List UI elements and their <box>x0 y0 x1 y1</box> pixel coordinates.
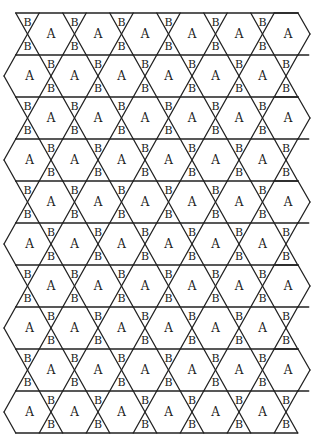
triangle-label-b: B <box>141 226 149 239</box>
hexagon-edge <box>4 160 16 181</box>
hexagon-label-a: A <box>210 321 220 335</box>
triangle-label-b: B <box>164 376 172 389</box>
triangle-label-b: B <box>23 40 31 53</box>
triangle-label-b: B <box>164 40 172 53</box>
hexagon-label-a: A <box>283 363 293 377</box>
triangle-label-b: B <box>188 310 196 323</box>
hexagon-label-a: A <box>24 237 34 251</box>
hexagon-label-a: A <box>257 405 267 419</box>
hexagon-label-a: A <box>257 153 267 167</box>
triangle-label-b: B <box>141 250 149 263</box>
triangle-label-b: B <box>235 58 243 71</box>
triangle-label-b: B <box>188 58 196 71</box>
hexagon-label-a: A <box>163 237 173 251</box>
triangle-label-b: B <box>47 82 55 95</box>
triangle-label-b: B <box>70 124 78 137</box>
hexagon-label-a: A <box>140 279 150 293</box>
triangle-label-b: B <box>282 310 290 323</box>
triangle-label-b: B <box>70 292 78 305</box>
triangle-label-b: B <box>211 268 219 281</box>
triangle-label-b: B <box>282 142 290 155</box>
hexagon-label-a: A <box>210 153 220 167</box>
triangle-label-b: B <box>211 352 219 365</box>
hexagon-label-a: A <box>210 69 220 83</box>
hexagon-label-a: A <box>234 195 244 209</box>
hexagon-label-a: A <box>93 363 103 377</box>
hexagon-label-a: A <box>234 111 244 125</box>
triangle-label-b: B <box>47 226 55 239</box>
hexagon-label-a: A <box>93 111 103 125</box>
hexagon-edge <box>4 391 16 412</box>
triangle-label-b: B <box>23 124 31 137</box>
hexagon-label-a: A <box>46 195 56 209</box>
hexagon-label-a: A <box>69 237 79 251</box>
triangle-label-b: B <box>164 268 172 281</box>
hexagon-edge <box>4 244 16 265</box>
triangle-label-b: B <box>141 58 149 71</box>
triangle-label-b: B <box>235 142 243 155</box>
triangle-label-b: B <box>164 124 172 137</box>
hexagon-edge <box>4 328 16 349</box>
triangle-label-b: B <box>94 226 102 239</box>
hexagon-label-a: A <box>234 27 244 41</box>
hexagon-edge <box>298 370 310 391</box>
triangle-label-b: B <box>282 418 290 431</box>
hexagon-label-a: A <box>140 27 150 41</box>
triangle-label-b: B <box>211 292 219 305</box>
triangle-label-b: B <box>164 292 172 305</box>
hexagon-label-a: A <box>163 405 173 419</box>
triangle-label-b: B <box>258 268 266 281</box>
triangle-label-b: B <box>117 208 125 221</box>
triangle-label-b: B <box>282 394 290 407</box>
triangle-label-b: B <box>235 334 243 347</box>
hexagon-label-a: A <box>46 111 56 125</box>
hexagon-label-a: A <box>283 279 293 293</box>
triangle-label-b: B <box>235 310 243 323</box>
hexagon-label-a: A <box>24 153 34 167</box>
triangle-label-b: B <box>47 142 55 155</box>
triangle-label-b: B <box>258 40 266 53</box>
hexagon-label-a: A <box>140 111 150 125</box>
triangle-label-b: B <box>23 292 31 305</box>
hexagon-label-a: A <box>187 363 197 377</box>
triangle-label-b: B <box>235 250 243 263</box>
triangle-label-b: B <box>258 208 266 221</box>
triangle-label-b: B <box>70 16 78 29</box>
triangle-label-b: B <box>117 184 125 197</box>
triangle-label-b: B <box>188 226 196 239</box>
triangle-label-b: B <box>94 142 102 155</box>
triangle-label-b: B <box>164 352 172 365</box>
hexagon-label-a: A <box>24 405 34 419</box>
hexagon-label-a: A <box>283 27 293 41</box>
hexagon-label-a: A <box>187 279 197 293</box>
hexagon-label-a: A <box>93 195 103 209</box>
triangle-label-b: B <box>70 268 78 281</box>
hexagon-label-a: A <box>283 195 293 209</box>
triangle-label-b: B <box>47 58 55 71</box>
triangle-label-b: B <box>70 352 78 365</box>
triangle-label-b: B <box>94 394 102 407</box>
triangle-label-b: B <box>211 16 219 29</box>
triangle-label-b: B <box>47 310 55 323</box>
triangle-label-b: B <box>47 166 55 179</box>
triangle-label-b: B <box>23 208 31 221</box>
triangle-label-b: B <box>258 292 266 305</box>
hexagon-label-a: A <box>210 237 220 251</box>
triangle-label-b: B <box>258 376 266 389</box>
hexagon-label-a: A <box>46 279 56 293</box>
triangle-label-b: B <box>94 250 102 263</box>
triangle-label-b: B <box>117 376 125 389</box>
hexagon-label-a: A <box>163 69 173 83</box>
triangle-label-b: B <box>117 16 125 29</box>
triangle-label-b: B <box>211 184 219 197</box>
triangle-label-b: B <box>258 100 266 113</box>
triangle-label-b: B <box>164 16 172 29</box>
triangle-label-b: B <box>188 142 196 155</box>
hexagon-edge <box>4 76 16 97</box>
hexagon-label-a: A <box>257 69 267 83</box>
triangle-label-b: B <box>94 418 102 431</box>
hexagon-label-a: A <box>46 363 56 377</box>
triangle-label-b: B <box>235 82 243 95</box>
hexagon-edge <box>298 34 310 55</box>
hexagon-label-a: A <box>69 69 79 83</box>
